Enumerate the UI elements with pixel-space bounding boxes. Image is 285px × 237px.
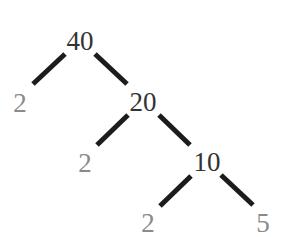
composite-node-n40: 40 <box>67 26 94 56</box>
prime-factor-node-n5: 5 <box>256 208 270 237</box>
tree-edge-n10-n5 <box>221 175 253 205</box>
composite-node-n20: 20 <box>130 87 157 117</box>
tree-edge-n20-n2b <box>97 115 128 145</box>
tree-edge-n40-n20 <box>95 54 127 84</box>
tree-edge-n10-n2c <box>160 176 191 206</box>
composite-node-n10: 10 <box>194 147 221 177</box>
factor-tree-diagram: 4022021025 <box>0 0 285 237</box>
prime-factor-node-n2b: 2 <box>78 148 92 178</box>
tree-edges <box>33 54 253 206</box>
tree-edge-n20-n10 <box>159 115 190 145</box>
prime-factor-node-n2c: 2 <box>141 208 155 237</box>
prime-factor-node-n2a: 2 <box>13 88 27 118</box>
tree-edge-n40-n2a <box>33 54 65 84</box>
tree-nodes: 4022021025 <box>13 26 270 237</box>
